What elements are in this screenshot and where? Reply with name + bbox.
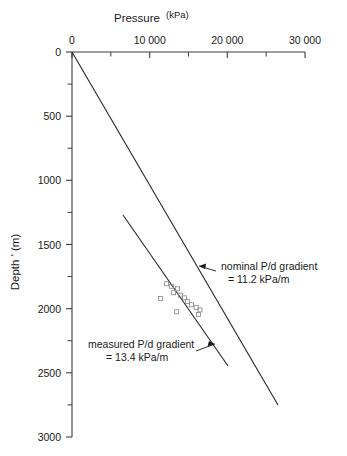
y-ticklabel-0: 0 [55,46,61,58]
chart-svg: 0 10 000 20 000 30 000 Pressure (kPa) [0,0,347,456]
x-axis-title: Pressure [114,12,160,24]
nominal-gradient-line [72,52,278,405]
nominal-annotation-line1: nominal P/d gradient [221,260,317,272]
y-ticklabel-500: 500 [43,110,61,122]
y-ticklabel-1500: 1500 [38,239,62,251]
nominal-annotation-arrow-icon [199,263,216,271]
x-ticklabel-20000: 20 000 [211,34,243,46]
measured-annotation: measured P/d gradient = 13.4 kPa/m [88,338,215,363]
x-axis-title-unit: (kPa) [166,9,189,20]
x-ticklabel-30000: 30 000 [289,34,321,46]
measured-annotation-line2: = 13.4 kPa/m [106,351,168,363]
x-ticklabel-0: 0 [69,34,75,46]
y-ticklabel-3000: 3000 [38,431,62,443]
measurement-markers [158,282,202,317]
pressure-depth-chart: 0 10 000 20 000 30 000 Pressure (kPa) [0,0,347,456]
marker-point [165,282,169,286]
y-ticklabel-1000: 1000 [38,174,62,186]
nominal-annotation-line2: = 11.2 kPa/m [228,273,290,285]
y-axis-title: Depth ' (m) [9,234,21,291]
y-ticklabel-2500: 2500 [38,367,62,379]
marker-point [175,310,179,314]
marker-point [190,303,194,307]
y-axis: 0 500 1000 1500 2000 2500 3000 Depth ' (… [9,46,72,443]
marker-point [158,296,162,300]
nominal-annotation: nominal P/d gradient = 11.2 kPa/m [199,260,317,285]
nominal-line-segment [72,52,278,405]
y-ticklabel-2000: 2000 [38,303,62,315]
marker-point [176,287,180,291]
measured-annotation-line1: measured P/d gradient [88,338,194,350]
marker-point [172,291,176,295]
x-axis: 0 10 000 20 000 30 000 Pressure (kPa) [69,9,321,58]
x-ticklabel-10000: 10 000 [134,34,166,46]
marker-point [197,312,201,316]
